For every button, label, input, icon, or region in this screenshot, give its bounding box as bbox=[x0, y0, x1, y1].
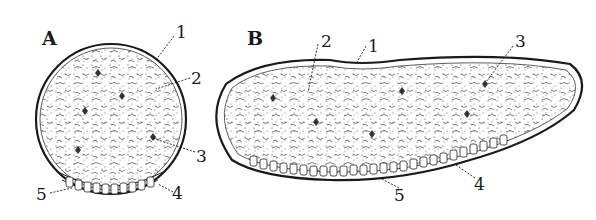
callout-a-4: 4 bbox=[172, 185, 183, 202]
callout-b-2: 2 bbox=[321, 33, 332, 50]
diagram-canvas bbox=[0, 0, 596, 220]
panel-a-section bbox=[36, 44, 186, 194]
panel-label-b: B bbox=[247, 29, 263, 48]
callout-a-5: 5 bbox=[36, 186, 47, 203]
callout-a-1: 1 bbox=[176, 24, 187, 41]
callout-b-3: 3 bbox=[515, 33, 526, 50]
panel-label-a: A bbox=[42, 29, 57, 48]
callout-b-4: 4 bbox=[474, 176, 485, 193]
callout-a-3: 3 bbox=[196, 148, 207, 165]
callout-b-1: 1 bbox=[368, 38, 379, 55]
callout-a-2: 2 bbox=[191, 70, 202, 87]
callout-b-5: 5 bbox=[394, 187, 405, 204]
panel-b-section bbox=[216, 57, 582, 180]
